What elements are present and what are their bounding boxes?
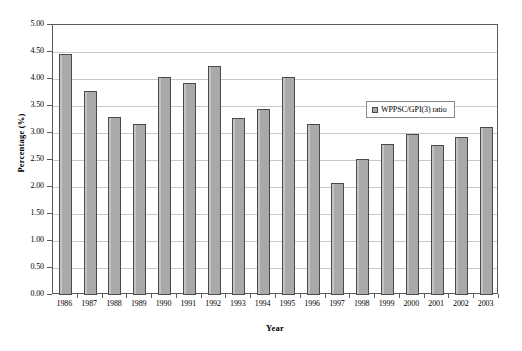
bar bbox=[381, 144, 394, 295]
x-axis-title: Year bbox=[52, 323, 498, 333]
x-axis-tick-mark bbox=[424, 294, 425, 298]
x-axis-tick-mark bbox=[374, 294, 375, 298]
x-axis-tick-mark bbox=[275, 294, 276, 298]
y-axis-tick-label: 0.50 bbox=[0, 263, 44, 271]
x-axis-tick-mark bbox=[399, 294, 400, 298]
gridline bbox=[53, 79, 497, 80]
chart-legend: WPPSC/GPI(3) ratio bbox=[366, 101, 455, 118]
legend-swatch-icon bbox=[372, 107, 378, 113]
bar bbox=[257, 109, 270, 295]
x-axis-tick-mark bbox=[250, 294, 251, 298]
bar bbox=[183, 83, 196, 295]
x-axis-tick-mark bbox=[151, 294, 152, 298]
bar bbox=[208, 66, 221, 295]
bar bbox=[282, 77, 295, 295]
y-axis-tick-label: 2.00 bbox=[0, 182, 44, 190]
plot-area: WPPSC/GPI(3) ratio bbox=[52, 24, 498, 294]
x-axis-tick-mark bbox=[225, 294, 226, 298]
x-axis-tick-label: 2003 bbox=[471, 300, 501, 308]
y-axis-tick-label: 4.00 bbox=[0, 74, 44, 82]
y-axis-tick-label: 4.50 bbox=[0, 47, 44, 55]
bar bbox=[455, 137, 468, 295]
y-axis-tick-label: 3.50 bbox=[0, 101, 44, 109]
y-axis-tick-label: 1.00 bbox=[0, 236, 44, 244]
bar bbox=[59, 54, 72, 295]
bar bbox=[108, 117, 121, 295]
bar bbox=[406, 134, 419, 295]
x-axis-tick-mark bbox=[349, 294, 350, 298]
x-axis-tick-mark bbox=[102, 294, 103, 298]
bar bbox=[84, 91, 97, 295]
bar bbox=[232, 118, 245, 295]
y-axis-tick-label: 2.50 bbox=[0, 155, 44, 163]
y-axis-tick-label: 3.00 bbox=[0, 128, 44, 136]
y-axis-tick-mark bbox=[47, 294, 52, 295]
x-axis-tick-mark bbox=[300, 294, 301, 298]
gridline bbox=[53, 52, 497, 53]
y-axis-tick-label: 5.00 bbox=[0, 20, 44, 28]
bar bbox=[331, 183, 344, 295]
bar bbox=[133, 124, 146, 295]
bar bbox=[158, 77, 171, 295]
x-axis-tick-mark bbox=[77, 294, 78, 298]
x-axis-tick-mark bbox=[498, 294, 499, 298]
y-axis-tick-label: 0.00 bbox=[0, 290, 44, 298]
bar bbox=[307, 124, 320, 295]
legend-label: WPPSC/GPI(3) ratio bbox=[381, 105, 447, 114]
bar bbox=[356, 159, 369, 295]
bar bbox=[431, 145, 444, 295]
x-axis-tick-mark bbox=[201, 294, 202, 298]
x-axis-tick-mark bbox=[176, 294, 177, 298]
x-axis-tick-mark bbox=[448, 294, 449, 298]
x-axis-tick-mark bbox=[325, 294, 326, 298]
x-axis-tick-mark bbox=[126, 294, 127, 298]
bar bbox=[480, 127, 493, 295]
y-axis-tick-label: 1.50 bbox=[0, 209, 44, 217]
x-axis-tick-mark bbox=[473, 294, 474, 298]
chart-figure: Percentage (%) 0.000.501.001.502.002.503… bbox=[0, 0, 522, 351]
